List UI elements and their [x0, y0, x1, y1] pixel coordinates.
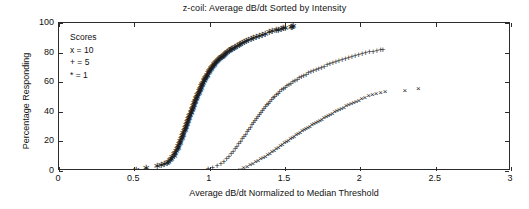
- x-tick: [436, 167, 437, 171]
- legend-entry-star: * = 1: [70, 69, 96, 82]
- x-axis-title: Average dB/dt Normalized to Median Thres…: [58, 188, 510, 198]
- x-tick-label: 1: [206, 173, 211, 183]
- y-tick: [59, 171, 63, 172]
- x-tick: [511, 167, 512, 171]
- x-tick-label: 0.5: [127, 173, 140, 183]
- y-tick-label: 20: [28, 135, 54, 145]
- x-tick-top: [285, 23, 286, 27]
- legend-title: Scores: [70, 31, 96, 44]
- figure: z-coil: Average dB/dt Sorted by Intensit…: [0, 0, 529, 209]
- y-tick-label: 0: [28, 165, 54, 175]
- y-tick-right: [505, 23, 509, 24]
- legend-entry-plus: + = 5: [70, 56, 96, 69]
- y-tick-label: 100: [28, 17, 54, 27]
- y-tick: [59, 82, 63, 83]
- x-tick-top: [436, 23, 437, 27]
- data-point: ∗: [142, 164, 150, 169]
- y-tick-label: 60: [28, 76, 54, 86]
- x-tick: [360, 167, 361, 171]
- data-point: ×: [402, 87, 407, 95]
- data-point: ∗: [132, 166, 140, 169]
- y-tick-right: [505, 112, 509, 113]
- y-tick: [59, 23, 63, 24]
- chart-title: z-coil: Average dB/dt Sorted by Intensit…: [0, 3, 529, 13]
- data-point: ×: [383, 88, 388, 96]
- y-tick-right: [505, 82, 509, 83]
- y-tick: [59, 112, 63, 113]
- x-tick-top: [511, 23, 512, 27]
- legend-entry-x: x = 10: [70, 44, 96, 57]
- x-tick-top: [134, 23, 135, 27]
- x-tick: [134, 167, 135, 171]
- legend: Scores x = 10 + = 5 * = 1: [70, 31, 96, 81]
- x-tick-top: [210, 23, 211, 27]
- x-tick: [210, 167, 211, 171]
- y-tick-label: 40: [28, 106, 54, 116]
- y-axis-title: Percentage Responding: [21, 31, 31, 171]
- x-tick-label: 1.5: [278, 173, 291, 183]
- plot-frame: ∗∗∗∗∗∗∗∗∗∗∗∗∗∗∗∗∗∗∗∗∗∗∗∗∗∗∗∗∗∗∗∗∗∗∗∗∗∗∗∗…: [58, 22, 510, 170]
- y-tick-right: [505, 171, 509, 172]
- plot-area: ∗∗∗∗∗∗∗∗∗∗∗∗∗∗∗∗∗∗∗∗∗∗∗∗∗∗∗∗∗∗∗∗∗∗∗∗∗∗∗∗…: [59, 23, 509, 169]
- data-point: ×: [416, 85, 421, 93]
- data-point: +: [380, 46, 385, 54]
- x-tick-label: 2: [357, 173, 362, 183]
- x-tick-top: [360, 23, 361, 27]
- data-point: ∗: [289, 23, 297, 30]
- y-tick-label: 80: [28, 47, 54, 57]
- x-tick-label: 3: [507, 173, 512, 183]
- y-tick: [59, 141, 63, 142]
- y-tick-right: [505, 53, 509, 54]
- y-tick: [59, 53, 63, 54]
- y-tick-right: [505, 141, 509, 142]
- x-tick-label: 0: [55, 173, 60, 183]
- x-tick-label: 2.5: [428, 173, 441, 183]
- x-tick: [285, 167, 286, 171]
